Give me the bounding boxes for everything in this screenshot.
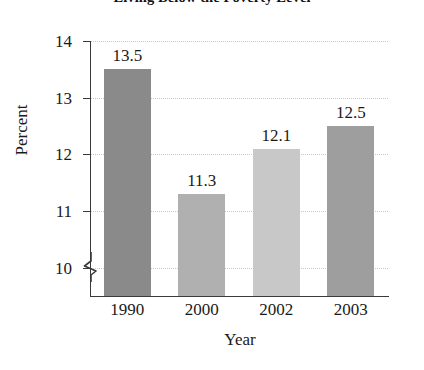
bar-value-label: 11.3: [187, 171, 216, 191]
bar-value-label: 12.5: [336, 103, 366, 123]
y-tick-label: 10: [55, 258, 72, 278]
bar[interactable]: 11.3: [178, 194, 225, 296]
x-axis-title: Year: [90, 330, 390, 350]
bar[interactable]: 12.1: [253, 149, 300, 296]
y-tick-label: 12: [55, 145, 72, 165]
x-axis-spine: [90, 296, 389, 297]
y-tick-mark: 14: [83, 41, 90, 42]
y-axis-title: Percent: [12, 70, 32, 190]
y-tick-label: 13: [55, 88, 72, 108]
bar-value-label: 13.5: [112, 46, 142, 66]
bar-group: 13.51990: [90, 41, 165, 296]
x-tick-label: 1990: [110, 300, 144, 320]
bar[interactable]: 12.5: [327, 126, 374, 296]
bar-group: 12.12002: [239, 41, 314, 296]
bar-group: 11.32000: [165, 41, 240, 296]
x-tick-label: 2003: [334, 300, 368, 320]
bar[interactable]: 13.5: [104, 69, 151, 296]
y-tick-mark: 11: [83, 211, 90, 212]
y-tick-mark: 13: [83, 98, 90, 99]
x-tick-label: 2002: [259, 300, 293, 320]
x-tick-label: 2000: [185, 300, 219, 320]
chart-figure: Living Below the Poverty Level Percent 1…: [0, 0, 424, 370]
plot-area: 1413121110 13.5199011.3200012.1200212.52…: [90, 41, 388, 296]
bar-value-label: 12.1: [261, 126, 291, 146]
y-tick-label: 14: [55, 32, 72, 52]
chart-title: Living Below the Poverty Level: [0, 0, 424, 6]
y-tick-mark: 12: [83, 154, 90, 155]
bar-group: 12.52003: [314, 41, 389, 296]
y-tick-label: 11: [56, 202, 72, 222]
